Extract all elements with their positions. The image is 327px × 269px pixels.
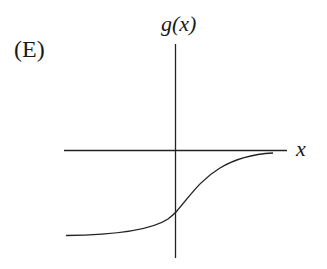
function-graph: (E) g(x) x	[0, 0, 327, 269]
x-axis-label: x	[295, 136, 306, 161]
panel-label: (E)	[14, 36, 45, 62]
y-axis-label: g(x)	[161, 11, 196, 36]
g-curve	[66, 153, 273, 236]
